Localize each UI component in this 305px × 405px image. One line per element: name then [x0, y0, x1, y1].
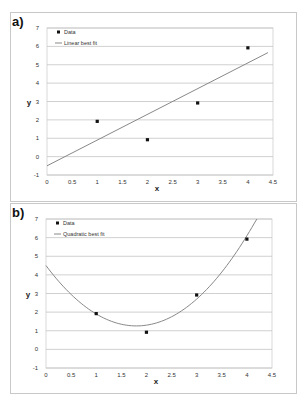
y-tick-label: 6 — [36, 43, 40, 49]
data-point — [195, 293, 198, 296]
y-tick-label: -1 — [34, 172, 40, 178]
data-point — [96, 120, 99, 123]
x-tick-label: 3 — [196, 179, 200, 185]
legend-label-data: Data — [64, 29, 77, 35]
legend-marker-data — [57, 31, 60, 34]
charts-canvas: -10123456700.511.522.533.544.5xyDataLine… — [0, 0, 305, 405]
y-tick-label: 4 — [35, 272, 39, 278]
x-tick-label: 4 — [246, 179, 250, 185]
x-tick-label: 0.5 — [67, 372, 76, 378]
y-tick-label: 3 — [35, 291, 39, 297]
x-tick-label: 4 — [245, 372, 249, 378]
legend-label-fit: Linear best fit — [64, 40, 97, 46]
data-point — [146, 138, 149, 141]
legend-marker-data — [56, 222, 59, 225]
y-tick-label: 6 — [35, 235, 39, 241]
y-tick-label: 3 — [36, 99, 40, 105]
y-tick-label: 7 — [36, 25, 40, 31]
x-tick-label: 3 — [195, 372, 199, 378]
x-tick-label: 1.5 — [117, 372, 126, 378]
y-tick-label: 5 — [36, 62, 40, 68]
x-tick-label: 1.5 — [118, 179, 127, 185]
legend-label-fit: Quadratic best fit — [63, 231, 105, 237]
x-tick-label: 4.5 — [269, 179, 278, 185]
y-tick-label: 0 — [35, 346, 39, 352]
x-tick-label: 4.5 — [268, 372, 277, 378]
y-tick-label: 1 — [35, 328, 39, 334]
x-tick-label: 2.5 — [167, 372, 176, 378]
y-tick-label: 4 — [36, 80, 40, 86]
x-tick-label: 2 — [145, 372, 149, 378]
data-point — [246, 46, 249, 49]
x-axis-label: x — [154, 377, 159, 386]
y-tick-label: 2 — [36, 117, 40, 123]
x-tick-label: 0 — [45, 179, 49, 185]
y-axis-label: y — [27, 98, 32, 107]
y-tick-label: -1 — [33, 365, 39, 371]
y-tick-label: 0 — [36, 154, 40, 160]
data-point — [95, 312, 98, 315]
x-tick-label: 1 — [96, 179, 100, 185]
x-tick-label: 0.5 — [68, 179, 77, 185]
x-tick-label: 0 — [44, 372, 48, 378]
x-tick-label: 2.5 — [168, 179, 177, 185]
data-point — [245, 238, 248, 241]
data-point — [196, 101, 199, 104]
y-tick-label: 2 — [35, 309, 39, 315]
x-tick-label: 2 — [146, 179, 150, 185]
y-axis-label: y — [26, 290, 31, 299]
x-axis-label: x — [155, 184, 160, 193]
legend-label-data: Data — [63, 220, 76, 226]
linear-fit-line — [47, 53, 268, 166]
y-tick-label: 7 — [35, 216, 39, 222]
x-tick-label: 3.5 — [218, 372, 227, 378]
x-tick-label: 3.5 — [219, 179, 228, 185]
data-point — [145, 331, 148, 334]
y-tick-label: 1 — [36, 135, 40, 141]
x-tick-label: 1 — [95, 372, 99, 378]
y-tick-label: 5 — [35, 253, 39, 259]
